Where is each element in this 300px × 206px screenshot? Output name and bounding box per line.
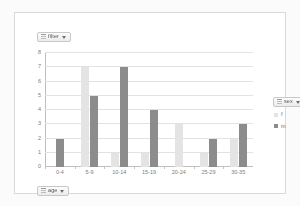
x-axis-tick-label: 25-29 [194, 170, 224, 176]
x-axis-tick [75, 167, 76, 169]
bar-group [45, 53, 75, 167]
y-axis-tick-label: 0 [38, 164, 41, 170]
y-axis-tick-label: 5 [38, 93, 41, 99]
field-list-icon [277, 99, 282, 105]
bar-group [164, 53, 194, 167]
chevron-down-icon[interactable] [60, 190, 64, 193]
y-axis-tick-label: 2 [38, 136, 41, 142]
bar-group [194, 53, 224, 167]
x-axis-tick-label: 20-24 [164, 170, 194, 176]
y-axis-tick-label: 8 [38, 50, 41, 56]
bar-group [223, 53, 253, 167]
x-axis-tick-label: 0-4 [45, 170, 75, 176]
x-axis-tick-label: 10-14 [104, 170, 134, 176]
x-axis-tick-label: 5-9 [75, 170, 105, 176]
bar-group [75, 53, 105, 167]
pivot-page-field-label: filter [48, 34, 59, 40]
bar-m-15-19[interactable] [150, 110, 158, 167]
y-axis-tick-label: 7 [38, 65, 41, 71]
x-axis-tick [134, 167, 135, 169]
field-list-icon [41, 188, 46, 194]
series-f-swatch [274, 113, 278, 117]
chart-legend: fm [274, 112, 286, 129]
bar-group [134, 53, 164, 167]
y-axis-tick-label: 6 [38, 79, 41, 85]
bar-m-5-9[interactable] [90, 96, 98, 167]
y-axis-tick-label: 3 [38, 122, 41, 128]
plot-area-wrapper: 012345678 [45, 53, 253, 167]
legend-entry-m[interactable]: m [274, 124, 286, 130]
x-axis-tick [104, 167, 105, 169]
bar-group [104, 53, 134, 167]
plot-area: 012345678 [45, 53, 253, 167]
y-axis-tick-label: 4 [38, 107, 41, 113]
chevron-down-icon[interactable] [62, 36, 66, 39]
x-axis-tick [164, 167, 165, 169]
field-list-icon [41, 34, 46, 40]
bar-f-20-24[interactable] [175, 124, 183, 167]
bar-m-0-4[interactable] [56, 139, 64, 168]
legend-label: m [281, 124, 286, 130]
chart-panel: filter 012345678 0-45-910-1415-1920-2425… [14, 12, 286, 194]
series-m-swatch [274, 124, 278, 128]
pivot-page-field-button[interactable]: filter [37, 32, 71, 42]
legend-entry-f[interactable]: f [274, 112, 286, 118]
bar-f-10-14[interactable] [111, 153, 119, 167]
bar-f-30-35[interactable] [230, 139, 238, 168]
x-axis-labels: 0-45-910-1415-1920-2425-2930-35 [45, 170, 253, 176]
pivot-legend-field-button[interactable]: sex [273, 97, 300, 107]
x-axis-tick [223, 167, 224, 169]
pivot-axis-field-button[interactable]: age [37, 186, 69, 196]
x-axis-tick-label: 30-35 [223, 170, 253, 176]
bar-f-25-29[interactable] [200, 153, 208, 167]
bar-f-5-9[interactable] [81, 67, 89, 167]
x-axis-tick-label: 15-19 [134, 170, 164, 176]
bar-series-container [45, 53, 253, 167]
bar-m-10-14[interactable] [120, 67, 128, 167]
pivot-legend-field-label: sex [284, 99, 293, 105]
chevron-down-icon[interactable] [296, 101, 300, 104]
legend-label: f [281, 112, 283, 118]
chart-sheet: filter 012345678 0-45-910-1415-1920-2425… [0, 0, 300, 206]
bar-f-15-19[interactable] [141, 153, 149, 167]
bar-m-25-29[interactable] [209, 139, 217, 168]
bar-m-30-35[interactable] [239, 124, 247, 167]
y-axis-tick-label: 1 [38, 150, 41, 156]
x-axis-tick [194, 167, 195, 169]
pivot-axis-field-label: age [48, 188, 57, 194]
x-axis-tick [45, 167, 46, 169]
